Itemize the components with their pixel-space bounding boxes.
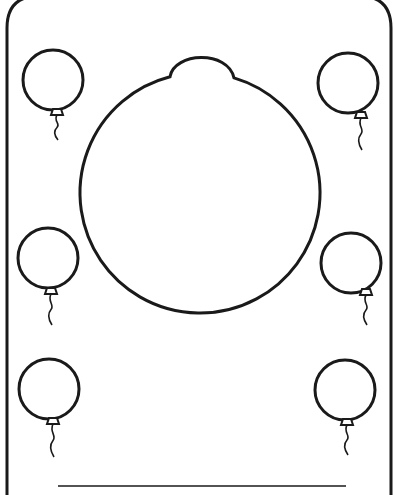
balloon-string	[54, 115, 58, 140]
balloon-knot	[47, 418, 59, 424]
balloon-body	[318, 53, 378, 113]
balloon-knot	[45, 288, 57, 294]
small-balloon-bottom-right	[315, 360, 375, 455]
small-balloon-middle-left	[18, 228, 78, 325]
balloon-string	[50, 424, 54, 457]
balloon-frame-artwork	[0, 0, 394, 495]
center-balloon-photo-area	[80, 58, 320, 313]
balloon-string	[358, 118, 362, 150]
balloon-knot	[355, 112, 367, 118]
balloon-knot	[51, 109, 63, 115]
small-balloon-top-left	[23, 50, 83, 140]
balloon-knot	[341, 419, 353, 425]
balloon-string	[363, 295, 367, 325]
balloon-body	[315, 360, 375, 420]
coloring-page	[0, 0, 394, 495]
balloon-body	[321, 233, 381, 293]
small-balloon-top-right	[318, 53, 378, 150]
balloon-body	[23, 50, 83, 110]
small-balloon-bottom-left	[19, 359, 79, 457]
balloon-body	[18, 228, 78, 288]
balloon-knot	[360, 289, 372, 295]
balloon-string	[344, 425, 348, 455]
name-line-caption	[58, 470, 346, 486]
balloon-body	[19, 359, 79, 419]
balloon-string	[48, 294, 52, 325]
small-balloon-middle-right	[321, 233, 381, 325]
